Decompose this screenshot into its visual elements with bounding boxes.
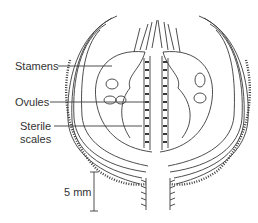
label-sterile: Sterile	[20, 120, 51, 132]
label-ovules: Ovules	[15, 96, 49, 108]
stalk	[146, 178, 170, 210]
label-scales: scales	[20, 133, 51, 145]
flower-section-diagram	[0, 0, 258, 223]
scale-bar-label: 5 mm	[64, 186, 92, 198]
label-stamens: Stamens	[15, 60, 58, 72]
